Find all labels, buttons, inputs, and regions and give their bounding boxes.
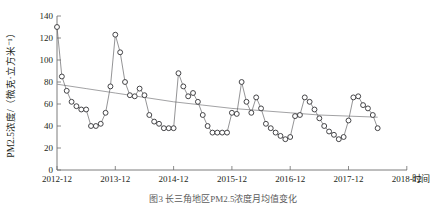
data-point bbox=[341, 135, 346, 140]
data-point bbox=[69, 99, 74, 104]
y-axis-ticks bbox=[57, 16, 61, 170]
data-point bbox=[215, 130, 220, 135]
data-point bbox=[132, 94, 137, 99]
data-point bbox=[283, 137, 288, 142]
series-line bbox=[57, 27, 378, 139]
data-point bbox=[161, 126, 166, 131]
svg-text:140: 140 bbox=[40, 11, 54, 21]
data-point bbox=[142, 93, 147, 98]
data-point bbox=[89, 124, 94, 129]
svg-text:40: 40 bbox=[44, 121, 54, 131]
data-point bbox=[288, 135, 293, 140]
svg-text:80: 80 bbox=[44, 77, 54, 87]
data-point bbox=[59, 74, 64, 79]
data-point bbox=[157, 121, 162, 126]
data-point bbox=[244, 99, 249, 104]
data-point bbox=[137, 86, 142, 91]
data-point bbox=[234, 111, 239, 116]
data-point bbox=[302, 95, 307, 100]
data-point bbox=[55, 25, 60, 30]
svg-text:2016-12: 2016-12 bbox=[275, 174, 305, 184]
data-point bbox=[98, 121, 103, 126]
data-point bbox=[229, 110, 234, 115]
data-point bbox=[127, 93, 132, 98]
data-point bbox=[152, 119, 157, 124]
svg-text:2017-12: 2017-12 bbox=[334, 174, 364, 184]
x-tick-labels: 2012-12 2013-12 2014-12 2015-12 2016-12 … bbox=[42, 174, 422, 184]
data-point bbox=[249, 110, 254, 115]
data-point bbox=[307, 99, 312, 104]
data-point bbox=[108, 84, 113, 89]
data-point bbox=[225, 130, 230, 135]
svg-text:2012-12: 2012-12 bbox=[42, 174, 72, 184]
data-point bbox=[346, 118, 351, 123]
data-point bbox=[293, 114, 298, 119]
svg-text:2015-12: 2015-12 bbox=[217, 174, 247, 184]
data-point bbox=[205, 124, 210, 129]
data-point-markers bbox=[55, 25, 381, 142]
data-point bbox=[93, 124, 98, 129]
data-point bbox=[74, 104, 79, 109]
data-point bbox=[327, 129, 332, 134]
data-point bbox=[210, 130, 215, 135]
data-point bbox=[273, 130, 278, 135]
data-point bbox=[181, 84, 186, 89]
figure-caption: 图3 长三角地区PM2.5浓度月均值变化 bbox=[0, 192, 447, 208]
data-point bbox=[322, 124, 327, 129]
data-point bbox=[297, 113, 302, 118]
data-point bbox=[331, 132, 336, 137]
data-point bbox=[64, 88, 69, 93]
data-point bbox=[361, 103, 366, 108]
svg-text:100: 100 bbox=[40, 55, 54, 65]
data-point bbox=[195, 99, 200, 104]
data-point bbox=[171, 126, 176, 131]
data-point bbox=[220, 130, 225, 135]
data-point bbox=[84, 107, 89, 112]
data-point bbox=[351, 95, 356, 100]
data-point bbox=[365, 106, 370, 111]
data-point bbox=[103, 110, 108, 115]
data-point bbox=[375, 126, 380, 131]
data-point bbox=[123, 80, 128, 85]
data-point bbox=[312, 107, 317, 112]
data-point bbox=[176, 71, 181, 76]
svg-text:120: 120 bbox=[40, 33, 54, 43]
data-point bbox=[268, 126, 273, 131]
data-point bbox=[370, 113, 375, 118]
data-point bbox=[147, 113, 152, 118]
data-point bbox=[200, 113, 205, 118]
data-point bbox=[79, 107, 84, 112]
data-point bbox=[191, 91, 196, 96]
data-point bbox=[113, 32, 118, 37]
x-axis-title: 时间 bbox=[412, 173, 430, 184]
plot-axes: 0 20 40 60 80 100 120 140 2012-12 2013-1… bbox=[5, 11, 430, 184]
x-axis-ticks bbox=[57, 166, 407, 170]
svg-text:60: 60 bbox=[44, 99, 54, 109]
data-point bbox=[118, 50, 123, 55]
svg-text:2014-12: 2014-12 bbox=[159, 174, 189, 184]
data-point bbox=[317, 116, 322, 121]
data-point bbox=[259, 106, 264, 111]
data-point bbox=[254, 95, 259, 100]
data-point bbox=[239, 80, 244, 85]
svg-text:2013-12: 2013-12 bbox=[100, 174, 130, 184]
y-axis-title: PM2.5浓度/（微克·立方米⁻¹） bbox=[5, 28, 16, 157]
y-tick-labels: 0 20 40 60 80 100 120 140 bbox=[40, 11, 54, 175]
svg-text:20: 20 bbox=[44, 143, 54, 153]
data-point bbox=[166, 126, 171, 131]
data-point bbox=[186, 94, 191, 99]
data-point bbox=[356, 94, 361, 99]
data-point bbox=[278, 133, 283, 138]
pm25-monthly-line-chart: 0 20 40 60 80 100 120 140 2012-12 2013-1… bbox=[0, 0, 447, 208]
data-point bbox=[336, 137, 341, 142]
data-point bbox=[263, 121, 268, 126]
